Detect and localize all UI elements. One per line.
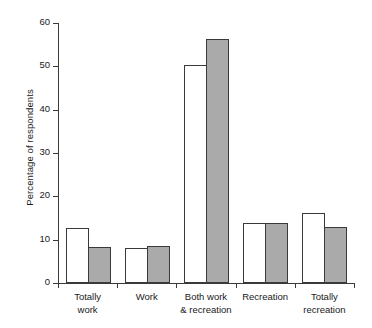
bar bbox=[147, 246, 170, 283]
bar bbox=[184, 65, 207, 283]
category-label: Totallyrecreation bbox=[282, 291, 367, 316]
bar bbox=[324, 227, 347, 283]
category-label-line: Totally bbox=[282, 291, 367, 304]
x-tick bbox=[354, 283, 355, 288]
x-axis-line bbox=[58, 283, 354, 284]
bar bbox=[265, 223, 288, 283]
y-tick-label: 40 bbox=[39, 103, 50, 114]
bar bbox=[243, 223, 266, 283]
x-tick bbox=[58, 283, 59, 288]
y-tick-label: 50 bbox=[39, 59, 50, 70]
y-tick-label: 60 bbox=[39, 16, 50, 27]
y-axis-title: Percentage of respondents bbox=[24, 58, 35, 238]
x-tick bbox=[295, 283, 296, 288]
category-label-line: & recreation bbox=[163, 304, 248, 317]
x-tick bbox=[117, 283, 118, 288]
y-tick: 40 bbox=[53, 110, 58, 111]
category-label-line: work bbox=[45, 304, 130, 317]
y-axis-line bbox=[58, 23, 59, 283]
y-tick: 20 bbox=[53, 196, 58, 197]
y-tick-label: 20 bbox=[39, 189, 50, 200]
y-tick: 50 bbox=[53, 66, 58, 67]
bar bbox=[206, 39, 229, 283]
y-tick: 10 bbox=[53, 240, 58, 241]
x-tick bbox=[176, 283, 177, 288]
bar bbox=[88, 247, 111, 283]
y-tick: 60 bbox=[53, 23, 58, 24]
bar bbox=[302, 213, 325, 283]
bar bbox=[66, 228, 89, 283]
y-tick-label: 30 bbox=[39, 146, 50, 157]
y-tick-label: 0 bbox=[45, 276, 50, 287]
y-tick-label: 10 bbox=[39, 233, 50, 244]
plot-area: 0102030405060 bbox=[58, 23, 354, 283]
y-tick: 30 bbox=[53, 153, 58, 154]
bar bbox=[125, 248, 148, 283]
bar-chart: Percentage of respondents 0102030405060 … bbox=[0, 0, 372, 328]
x-tick bbox=[236, 283, 237, 288]
category-label-line: recreation bbox=[282, 304, 367, 317]
